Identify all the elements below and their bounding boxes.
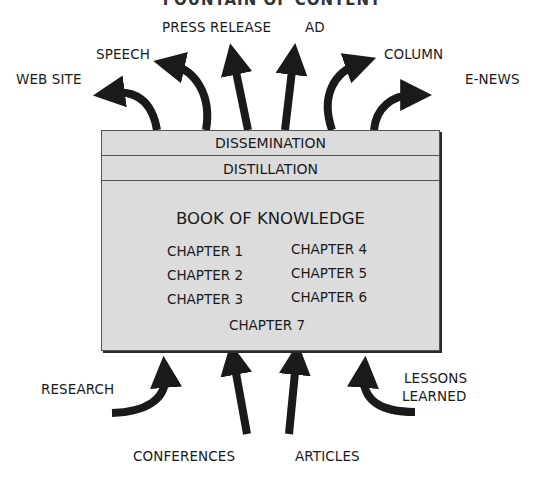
chapter-4: CHAPTER 4 bbox=[291, 241, 367, 257]
output-column: COLUMN bbox=[384, 48, 443, 62]
input-articles: ARTICLES bbox=[295, 450, 360, 464]
input-lessons-line2: LEARNED bbox=[402, 390, 466, 404]
arrow-research bbox=[112, 375, 165, 413]
input-conferences: CONFERENCES bbox=[133, 450, 235, 464]
chapter-1: CHAPTER 1 bbox=[167, 243, 243, 259]
book-title: BOOK OF KNOWLEDGE bbox=[102, 209, 439, 228]
arrow-ad bbox=[285, 62, 293, 130]
layer-dissemination: DISSEMINATION bbox=[102, 131, 439, 156]
output-ad: AD bbox=[305, 21, 325, 35]
arrow-articles bbox=[289, 362, 296, 434]
chapter-2: CHAPTER 2 bbox=[167, 267, 243, 283]
chapter-6: CHAPTER 6 bbox=[291, 289, 367, 305]
arrow-press-release bbox=[234, 62, 248, 130]
chapter-5: CHAPTER 5 bbox=[291, 265, 367, 281]
layer-distillation: DISTILLATION bbox=[102, 156, 439, 181]
input-research: RESEARCH bbox=[41, 383, 114, 397]
chapter-7: CHAPTER 7 bbox=[229, 317, 305, 333]
arrow-web-site bbox=[112, 92, 157, 130]
arrow-e-news bbox=[374, 95, 413, 130]
chapter-3: CHAPTER 3 bbox=[167, 291, 243, 307]
output-web-site: WEB SITE bbox=[16, 73, 82, 87]
input-lessons-line1: LESSONS bbox=[404, 372, 467, 386]
knowledge-box: DISSEMINATION DISTILLATION BOOK OF KNOWL… bbox=[101, 130, 440, 351]
output-speech: SPEECH bbox=[96, 48, 150, 62]
output-e-news: E-NEWS bbox=[465, 73, 520, 87]
arrow-speech bbox=[172, 65, 207, 130]
output-press-release: PRESS RELEASE bbox=[162, 21, 271, 35]
arrow-column bbox=[328, 64, 358, 130]
arrow-conferences bbox=[234, 362, 247, 434]
